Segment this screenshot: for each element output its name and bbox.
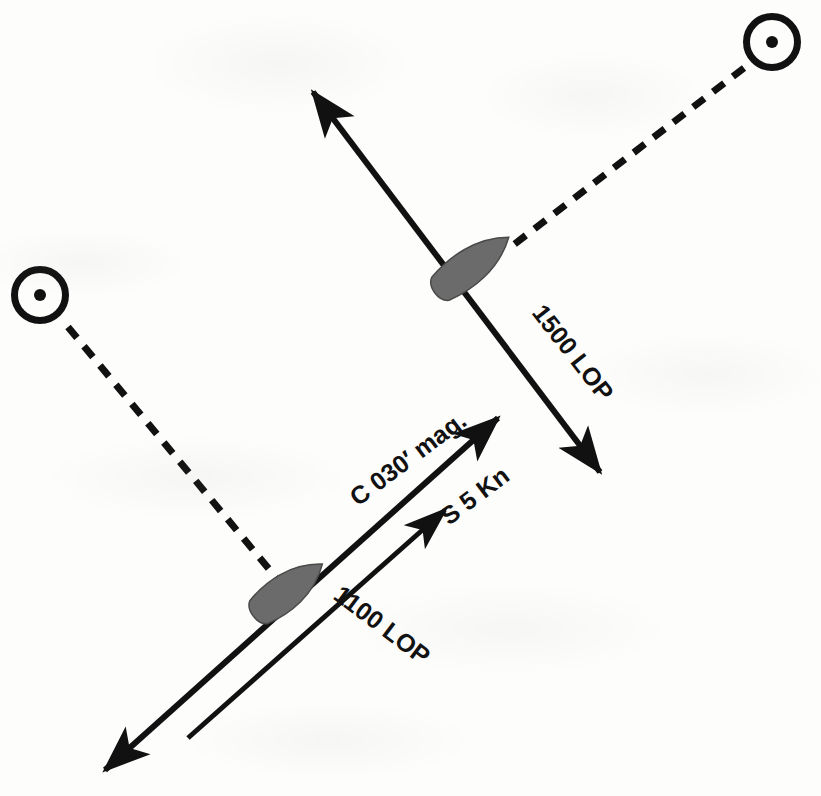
bearing-1100: [68, 327, 283, 586]
vector-group: [188, 510, 445, 738]
landmark-center-dot-icon: [766, 36, 778, 48]
navigation-plot-figure: 1500 LOP1100 LOPC 030′ mag.S 5 Kn: [0, 0, 821, 796]
speed-vector: [188, 510, 445, 738]
label-group: 1500 LOP1100 LOPC 030′ mag.S 5 Kn: [329, 299, 619, 670]
vessel-1500-position: [424, 223, 519, 307]
lop-line-group: [105, 92, 600, 770]
landmark-left: [15, 270, 66, 321]
bearing-1500: [512, 68, 744, 246]
label-lop-1100: 1100 LOP: [329, 580, 436, 670]
landmark-center-dot-icon: [34, 289, 46, 301]
vessel-hull-shape: [424, 223, 519, 307]
plot-canvas: 1500 LOP1100 LOPC 030′ mag.S 5 Kn: [0, 0, 821, 796]
landmark-symbol-group: [15, 17, 798, 321]
bearing-line-group: [68, 68, 744, 586]
label-speed: S 5 Kn: [435, 461, 514, 530]
landmark-upper-right: [747, 17, 798, 68]
